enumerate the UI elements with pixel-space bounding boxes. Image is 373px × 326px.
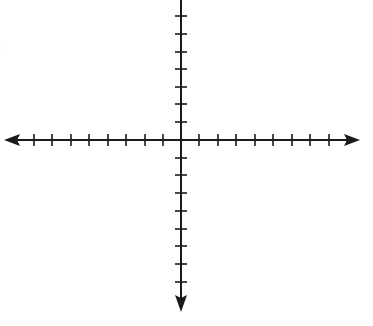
coordinate-plane	[0, 0, 373, 326]
